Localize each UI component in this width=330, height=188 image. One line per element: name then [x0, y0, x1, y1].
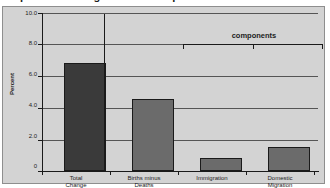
chart-screenshot: Population Change and Its Components: 19…	[0, 0, 330, 188]
bracket-leg-center	[253, 44, 254, 49]
y-axis-label-8: 8.0	[7, 40, 37, 46]
x-axis-tick-4	[314, 171, 315, 175]
bar-total-change[interactable]	[64, 63, 106, 171]
bar-immigration[interactable]	[200, 158, 242, 171]
plot-area: components	[42, 13, 318, 171]
components-bracket	[183, 44, 323, 49]
chart-title-strip: Population Change and Its Components: 19…	[0, 0, 330, 4]
x-axis-label-births-minus-deaths: Births minus Deaths	[110, 175, 178, 188]
bar-domestic-migration[interactable]	[268, 147, 310, 171]
x-axis-label-immigration: Immigration	[178, 175, 246, 182]
x-axis-line	[42, 171, 319, 172]
bracket-leg-left	[183, 44, 184, 49]
y-axis-title: Percent	[9, 61, 15, 107]
x-axis-label-domestic-migration: Domestic Migration	[246, 175, 314, 188]
category-separator-line	[104, 14, 105, 171]
y-axis-label-2: 2.0	[7, 133, 37, 139]
bar-births-minus-deaths[interactable]	[132, 99, 174, 171]
chart-title: Population Change and Its Components: 19…	[6, 0, 262, 2]
y-axis-label-10: 10.0	[7, 10, 37, 16]
x-axis-label-total-change: Total Change	[42, 175, 110, 188]
components-annotation-label: components	[184, 31, 324, 40]
gridline-10	[42, 13, 318, 14]
chart-frame: 10.0 8.0 6.0 4.0 2.0 0 Percent co	[2, 6, 325, 184]
y-axis-label-0: 0	[7, 163, 37, 169]
y-axis-line	[42, 13, 43, 172]
bracket-leg-right	[322, 44, 323, 49]
